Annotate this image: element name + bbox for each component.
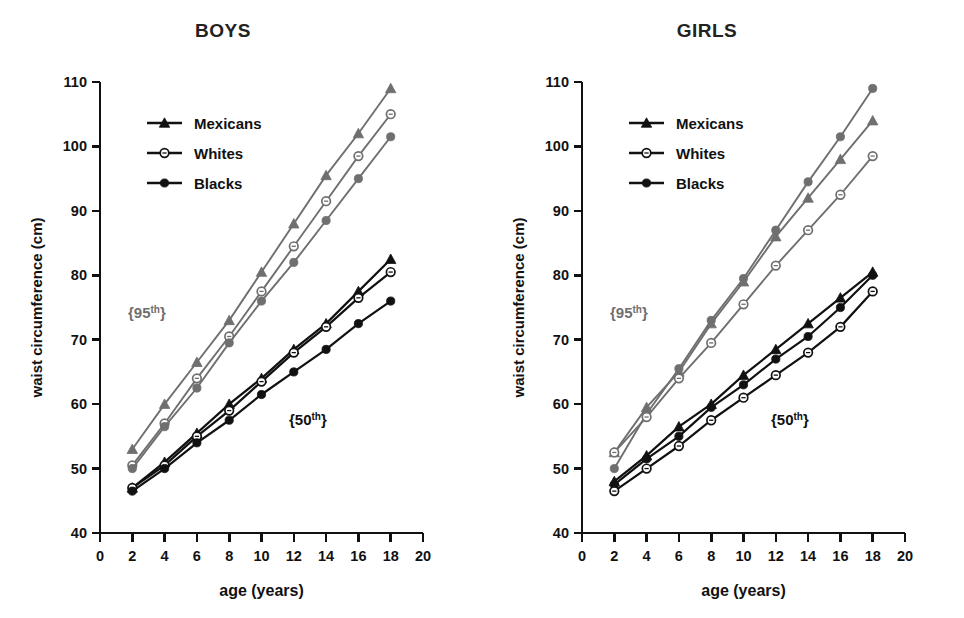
y-tick-label: 100 (63, 138, 87, 154)
point-blacks-50th (161, 464, 169, 472)
x-tick-label: 12 (286, 548, 302, 564)
annotation-95th-sup: th (633, 304, 642, 315)
point-blacks-95th (257, 297, 265, 305)
point-blacks-95th (322, 216, 330, 224)
x-tick-label: 10 (253, 548, 269, 564)
series-group-boys (127, 83, 396, 495)
annotation-95th: {95th} (610, 304, 648, 321)
point-blacks-50th (225, 416, 233, 424)
y-tick-label: 110 (546, 74, 569, 90)
point-blacks-50th (290, 368, 298, 376)
x-tick-label: 4 (643, 548, 651, 564)
annotation-50th: {50th} (289, 411, 327, 428)
x-tick-label: 0 (96, 548, 104, 564)
x-tick-label: 6 (675, 548, 683, 564)
annotation-95th-sup: th (151, 304, 160, 315)
point-blacks-95th (869, 84, 877, 92)
point-blacks-50th (257, 390, 265, 398)
x-tick-label: 18 (383, 548, 399, 564)
annotation-50th: {50th} (771, 411, 809, 428)
x-tick-label: 18 (865, 548, 881, 564)
panel-girls: GIRLS 4050607080901001100246810121416182… (482, 0, 964, 618)
y-tick-label: 110 (64, 74, 87, 90)
annotation-95th-main: {95 (610, 304, 633, 321)
legend-label-whites: Whites (676, 145, 725, 162)
y-tick-label: 70 (71, 332, 87, 348)
x-tick-label: 10 (735, 548, 751, 564)
point-blacks-50th (387, 297, 395, 305)
x-axis-title: age (years) (701, 582, 786, 599)
x-tick-label: 16 (350, 548, 366, 564)
point-mexicans-95th (868, 115, 878, 124)
point-blacks-95th (354, 175, 362, 183)
x-tick-label: 4 (161, 548, 169, 564)
annotation-50th-main: {50 (289, 411, 312, 428)
point-mexicans-50th (386, 254, 396, 263)
x-tick-label: 6 (193, 548, 201, 564)
legend-boys: MexicansWhitesBlacks (147, 115, 262, 192)
annotation-95th-close: } (160, 304, 166, 321)
annotation-50th-main: {50 (771, 411, 794, 428)
point-blacks-50th (707, 403, 715, 411)
annotation-95th-close: } (642, 304, 648, 321)
legend-girls: MexicansWhitesBlacks (629, 115, 744, 192)
y-tick-label: 90 (71, 203, 87, 219)
point-blacks-50th (128, 487, 136, 495)
y-tick-label: 40 (71, 525, 87, 541)
point-blacks-50th (675, 432, 683, 440)
plot-girls: 40506070809010011002468101214161820age (… (482, 0, 964, 618)
point-blacks-50th (739, 381, 747, 389)
y-tick-label: 80 (71, 267, 87, 283)
point-blacks-95th (804, 178, 812, 186)
x-tick-label: 20 (897, 548, 913, 564)
y-tick-label: 90 (553, 203, 569, 219)
y-tick-label: 60 (553, 396, 569, 412)
legend-marker-blacks (642, 179, 650, 187)
point-blacks-50th (643, 455, 651, 463)
y-axis-title: waist circumference (cm) (510, 217, 527, 398)
figure-root: BOYS 40506070809010011002468101214161820… (0, 0, 964, 618)
x-tick-label: 8 (707, 548, 715, 564)
plot-boys: 40506070809010011002468101214161820age (… (0, 0, 482, 618)
line-whites-50th (614, 291, 872, 491)
point-blacks-50th (354, 320, 362, 328)
x-tick-label: 12 (768, 548, 784, 564)
point-mexicans-95th (386, 83, 396, 92)
x-tick-label: 14 (318, 548, 334, 564)
x-axis-title: age (years) (219, 582, 304, 599)
y-tick-label: 60 (71, 396, 87, 412)
legend-marker-blacks (160, 179, 168, 187)
y-tick-label: 100 (545, 138, 569, 154)
annotation-95th: {95th} (128, 304, 166, 321)
legend-label-blacks: Blacks (194, 175, 242, 192)
annotation-50th-close: } (321, 411, 327, 428)
y-axis-title: waist circumference (cm) (28, 217, 45, 398)
x-tick-label: 20 (415, 548, 431, 564)
legend-label-blacks: Blacks (676, 175, 724, 192)
panel-boys: BOYS 40506070809010011002468101214161820… (0, 0, 482, 618)
x-tick-label: 14 (800, 548, 816, 564)
legend-label-whites: Whites (194, 145, 243, 162)
series-group-girls (609, 84, 878, 495)
annotation-95th-main: {95 (128, 304, 151, 321)
y-tick-label: 50 (553, 461, 569, 477)
legend-label-mexicans: Mexicans (676, 115, 744, 132)
point-blacks-95th (128, 464, 136, 472)
point-blacks-95th (836, 133, 844, 141)
y-tick-label: 50 (71, 461, 87, 477)
legend-label-mexicans: Mexicans (194, 115, 262, 132)
point-blacks-95th (193, 384, 201, 392)
annotation-50th-close: } (803, 411, 809, 428)
x-tick-label: 8 (225, 548, 233, 564)
annotation-50th-sup: th (312, 411, 321, 422)
point-blacks-95th (161, 423, 169, 431)
point-blacks-95th (610, 464, 618, 472)
y-tick-label: 80 (553, 267, 569, 283)
point-blacks-95th (387, 133, 395, 141)
y-tick-label: 70 (553, 332, 569, 348)
point-blacks-50th (322, 345, 330, 353)
point-blacks-95th (225, 339, 233, 347)
point-blacks-50th (193, 439, 201, 447)
x-tick-label: 2 (610, 548, 618, 564)
x-tick-label: 2 (128, 548, 136, 564)
